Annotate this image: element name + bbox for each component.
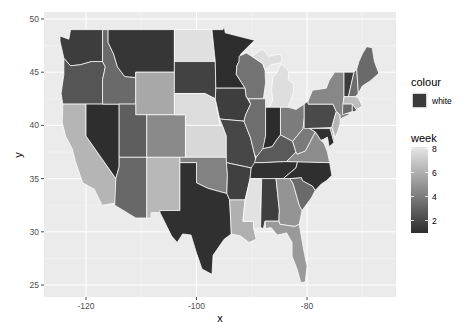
state-colorado — [147, 115, 186, 158]
y-tick-50: 50 — [30, 14, 40, 24]
choropleth-chart: 50 45 40 35 30 25 y -120 -100 -80 x colo… — [0, 0, 471, 334]
legend-week-title: week — [410, 132, 437, 144]
x-tick-minus-100: -100 — [188, 301, 205, 311]
week-tick-4: 4 — [432, 192, 437, 202]
week-tick-6: 6 — [432, 168, 437, 178]
state-oregon — [61, 58, 105, 104]
y-tick-30: 30 — [30, 227, 40, 237]
week-tick-2: 2 — [432, 216, 437, 226]
y-tick-25: 25 — [30, 280, 40, 290]
y-axis-title: y — [12, 152, 24, 158]
legend-colour: colour white — [411, 76, 452, 109]
x-tick-minus-120: -120 — [77, 301, 94, 311]
state-north-dakota — [174, 30, 215, 62]
y-tick-35: 35 — [30, 174, 40, 184]
x-axis: -120 -100 -80 x — [77, 297, 313, 324]
state-pennsylvania — [304, 101, 336, 129]
state-kansas — [185, 125, 226, 157]
y-tick-40: 40 — [30, 120, 40, 130]
legend-colour-label-white: white — [431, 96, 452, 106]
x-axis-title: x — [217, 312, 223, 324]
legend-colour-title: colour — [411, 76, 441, 88]
x-tick-minus-80: -80 — [301, 301, 314, 311]
legend-week: week 8 6 4 2 — [410, 132, 437, 233]
week-tick-8: 8 — [432, 144, 437, 154]
y-tick-45: 45 — [30, 67, 40, 77]
state-wyoming — [136, 72, 175, 115]
legend-colour-key — [413, 94, 427, 108]
y-axis: 50 45 40 35 30 25 y — [12, 14, 44, 290]
state-new-mexico — [147, 157, 180, 218]
